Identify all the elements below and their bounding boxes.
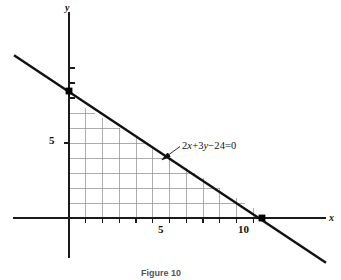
equation-const: 24 [214, 140, 225, 151]
line-2x-3y-24 [14, 55, 326, 263]
figure-container: y x 5 5 10 2x+3y−24=0 Figure 10 [0, 0, 341, 280]
y-tick-label-5: 5 [49, 135, 55, 146]
y-axis-label: y [65, 3, 69, 13]
equation-zero: 0 [231, 140, 236, 151]
figure-caption: Figure 10 [141, 269, 181, 280]
x-intercept-point [259, 215, 266, 222]
x-tick-label-10: 10 [238, 224, 249, 235]
y-intercept-point [66, 88, 73, 95]
equation-annotation: 2x+3y−24=0 [182, 141, 236, 152]
equation-leader-arrow [162, 147, 180, 160]
lattice-grid [69, 98, 253, 218]
x-tick-label-5: 5 [158, 224, 164, 235]
x-axis-label: x [329, 213, 334, 223]
